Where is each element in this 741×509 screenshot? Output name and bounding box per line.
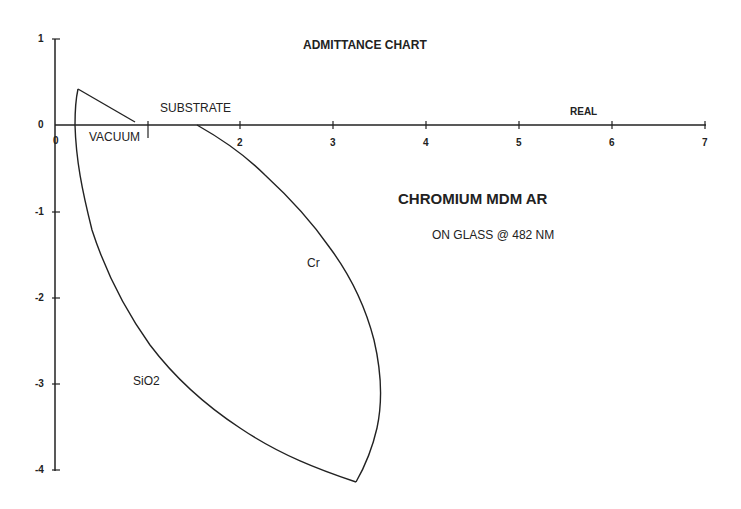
- main-heading: CHROMIUM MDM AR: [398, 190, 547, 207]
- x-tick-label: 5: [516, 137, 522, 148]
- y-tick-label: 0: [38, 119, 44, 130]
- y-tick-label: -2: [35, 292, 44, 303]
- initial-layer-segment: [78, 89, 135, 122]
- x-tick-label: 2: [237, 137, 243, 148]
- chart-canvas: [0, 0, 741, 509]
- x-tick-label: 4: [423, 137, 429, 148]
- vacuum-label: VACUUM: [89, 130, 140, 144]
- y-tick-label: -1: [35, 206, 44, 217]
- y-ticks: [52, 39, 60, 470]
- sub-heading: ON GLASS @ 482 NM: [432, 228, 554, 242]
- sio2-label: SiO2: [133, 374, 160, 388]
- x-tick-label: 7: [702, 137, 708, 148]
- cr-locus-curve: [197, 125, 381, 482]
- chart-title: ADMITTANCE CHART: [303, 38, 427, 52]
- sio2-locus-curve: [75, 89, 356, 482]
- y-tick-label: 1: [38, 33, 44, 44]
- cr-label: Cr: [307, 256, 320, 270]
- x-tick-label: 0: [53, 135, 59, 146]
- substrate-label: SUBSTRATE: [160, 101, 231, 115]
- y-tick-label: -3: [35, 378, 44, 389]
- x-tick-label: 3: [330, 137, 336, 148]
- y-tick-label: -4: [35, 464, 44, 475]
- x-tick-label: 6: [609, 137, 615, 148]
- x-axis-label: REAL: [570, 106, 597, 117]
- x-ticks: [148, 121, 705, 138]
